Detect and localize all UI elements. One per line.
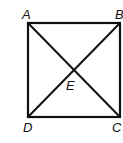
vertex-label-b: B [115, 7, 123, 22]
intersection-label-e: E [66, 78, 75, 93]
square-diagram: A B C D E [0, 0, 123, 143]
vertex-label-d: D [23, 120, 32, 135]
vertex-label-a: A [21, 7, 31, 22]
vertex-label-c: C [112, 120, 122, 135]
